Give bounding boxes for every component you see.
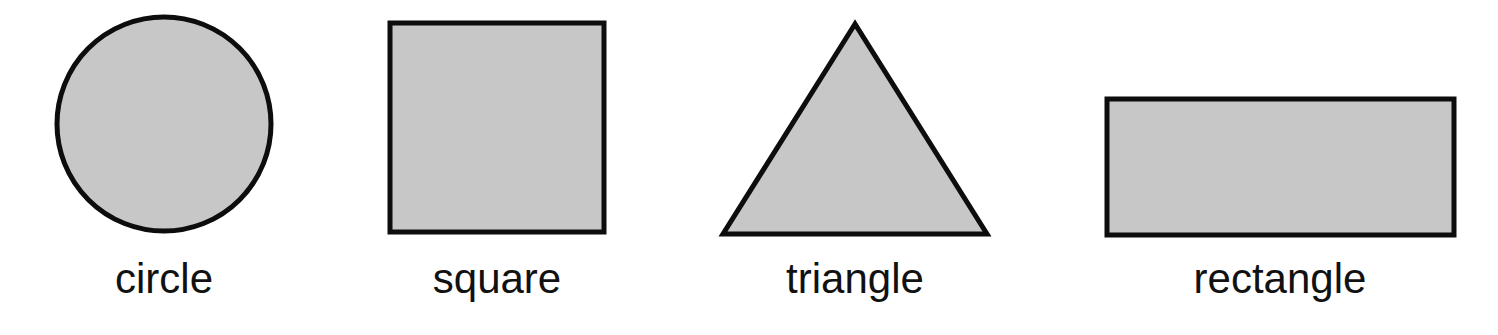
square-shape [390, 23, 604, 232]
circle-label: circle [115, 258, 213, 300]
triangle-shape [723, 24, 987, 234]
circle-shape [57, 17, 271, 231]
triangle-label: triangle [786, 258, 924, 300]
rectangle-label: rectangle [1194, 258, 1367, 300]
rectangle-shape [1107, 99, 1454, 235]
square-label: square [433, 258, 561, 300]
